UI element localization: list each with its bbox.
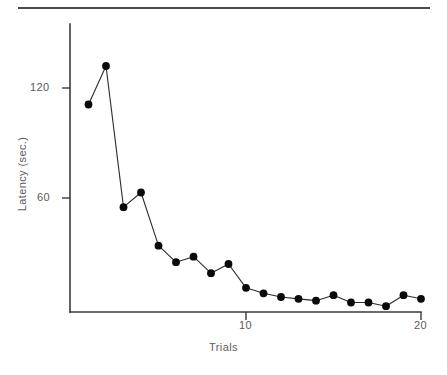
y-axis-tick-label-60: 60 <box>37 191 50 203</box>
chart-plot-area <box>0 0 447 375</box>
latency-series-markers <box>85 62 425 310</box>
x-axis-tick-label-10: 10 <box>239 319 252 331</box>
x-axis-tick-label-20: 20 <box>414 319 427 331</box>
chart-figure: 120 60 10 20 Trials Latency (sec.) <box>0 0 447 375</box>
y-axis-tick-label-120: 120 <box>30 81 50 93</box>
x-axis-title: Trials <box>0 341 447 353</box>
y-axis-title: Latency (sec.) <box>16 119 28 229</box>
latency-series-line <box>89 66 422 306</box>
